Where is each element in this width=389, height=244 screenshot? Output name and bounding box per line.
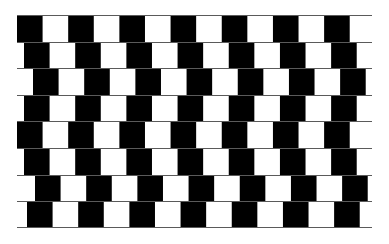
tile-row	[17, 201, 372, 228]
tile-row	[17, 148, 372, 175]
tile-row	[17, 42, 372, 69]
mortar-line	[17, 148, 372, 149]
cafe-wall-grid	[17, 15, 372, 228]
tile-row	[17, 68, 372, 95]
mortar-line	[17, 42, 372, 43]
mortar-line	[17, 95, 372, 96]
mortar-line	[17, 175, 372, 176]
tile-row	[17, 175, 372, 202]
mortar-line	[17, 68, 372, 69]
tile-row	[17, 121, 372, 148]
mortar-line	[17, 201, 372, 202]
tile-row	[17, 15, 372, 42]
mortar-line	[17, 227, 372, 228]
tile-row	[17, 95, 372, 122]
mortar-line	[17, 15, 372, 16]
mortar-line	[17, 121, 372, 122]
